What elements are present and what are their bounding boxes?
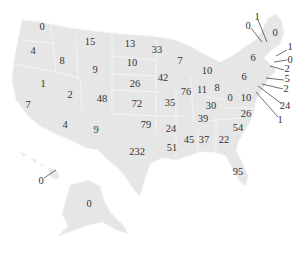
state-label-nd: 13 [125, 39, 136, 50]
state-label-ga: 22 [219, 135, 230, 146]
state-label-ar: 24 [166, 124, 177, 135]
state-label-ne: 26 [130, 79, 141, 90]
state-label-de: 2 [283, 84, 288, 95]
state-label-wy: 9 [92, 65, 97, 76]
state-label-dc: 1 [277, 115, 282, 126]
state-label-mn: 33 [152, 45, 163, 56]
state-label-ca: 7 [25, 100, 30, 111]
state-label-wi: 7 [177, 56, 182, 67]
state-label-ks: 72 [132, 99, 143, 110]
state-label-ut: 2 [67, 90, 72, 101]
state-label-ia: 42 [158, 73, 169, 84]
hawaii-islands [20, 152, 44, 167]
state-label-ms: 45 [184, 135, 195, 146]
state-label-ak: 0 [86, 199, 91, 210]
state-label-wa: 0 [39, 22, 44, 33]
state-label-md: 24 [280, 101, 291, 112]
state-label-mi: 10 [202, 66, 213, 77]
state-label-la: 51 [167, 143, 178, 154]
state-label-nh: 1 [254, 12, 259, 23]
state-label-il: 76 [181, 87, 192, 98]
state-label-hi: 0 [38, 176, 43, 187]
state-label-id: 8 [59, 56, 64, 67]
state-label-tx: 232 [129, 147, 145, 158]
state-label-vt: 0 [245, 21, 250, 32]
state-label-sc: 54 [233, 123, 244, 134]
state-label-oh: 8 [214, 83, 219, 94]
state-label-va: 10 [241, 93, 252, 104]
state-label-az: 4 [62, 120, 67, 131]
state-label-nc: 26 [241, 109, 252, 120]
state-label-ny: 6 [250, 53, 255, 64]
state-label-sd: 10 [127, 58, 138, 69]
state-label-nm: 9 [93, 125, 98, 136]
state-label-me: 0 [272, 28, 277, 39]
state-label-fl: 95 [233, 167, 244, 178]
state-label-ma: 1 [287, 42, 292, 53]
state-label-co: 48 [97, 94, 108, 105]
state-label-ky: 30 [206, 101, 217, 112]
state-label-mo: 35 [165, 98, 176, 109]
state-label-al: 37 [199, 135, 210, 146]
state-label-in: 11 [197, 85, 207, 96]
state-label-nv: 1 [40, 79, 45, 90]
state-label-ok: 79 [141, 120, 152, 131]
state-label-or: 4 [30, 46, 35, 57]
us-map [0, 0, 307, 258]
state-label-mt: 15 [85, 37, 96, 48]
state-label-tn: 39 [198, 114, 209, 125]
alaska [58, 180, 128, 236]
state-label-pa: 6 [241, 72, 246, 83]
state-label-wv: 0 [227, 93, 232, 104]
